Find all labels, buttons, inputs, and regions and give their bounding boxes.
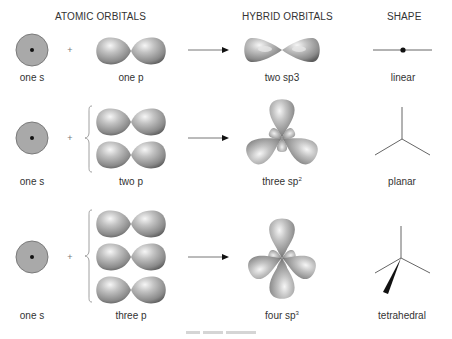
label-hybrid-row2: three sp2 (262, 176, 301, 187)
label-hybrid-row1: two sp3 (265, 72, 299, 83)
sp-hybrid-orbital (244, 38, 320, 62)
s-orbital-row3 (16, 241, 48, 273)
arrow-row3-icon (188, 254, 229, 260)
arrow-row2-icon (188, 135, 229, 141)
hybrid-text-row3: four sp (265, 310, 296, 321)
p-orbital-row2-b (96, 142, 166, 169)
linear-shape (373, 47, 432, 52)
p-orbital-row2-a (96, 109, 166, 136)
brace-row3 (85, 210, 92, 302)
hybrid-sup-row3: 3 (296, 310, 299, 316)
hybrid-sup-row2: 2 (298, 176, 301, 182)
label-shape-row2: planar (388, 176, 416, 187)
label-s-row2: one s (20, 176, 44, 187)
label-s-row3: one s (20, 310, 44, 321)
label-hybrid-row3: four sp3 (265, 310, 299, 321)
p-orbital-row3-a (96, 211, 166, 238)
planar-shape (375, 107, 430, 155)
hybridization-diagram: + + + (0, 0, 452, 339)
plus-sign-row2: + (67, 133, 72, 143)
label-shape-row3: tetrahedral (378, 310, 426, 321)
sp2-hybrid-orbital (242, 99, 322, 168)
p-orbital-row3-c (96, 277, 166, 304)
s-orbital-row1 (16, 34, 48, 66)
plus-sign-row1: + (67, 45, 72, 55)
label-p-row2: two p (119, 176, 143, 187)
p-orbital-row1 (96, 38, 166, 65)
arrow-row1-icon (188, 47, 229, 53)
label-p-row3: three p (115, 310, 146, 321)
figure-caption-cropped (186, 331, 256, 335)
hybrid-text-row1: two sp3 (265, 72, 299, 83)
tetrahedral-shape (375, 226, 430, 294)
p-orbital-row3-b (96, 244, 166, 271)
s-orbital-row2 (16, 122, 48, 154)
label-s-row1: one s (20, 72, 44, 83)
plus-sign-row3: + (67, 252, 72, 262)
label-p-row1: one p (118, 72, 143, 83)
brace-row2 (85, 106, 92, 172)
hybrid-text-row2: three sp (262, 176, 298, 187)
label-shape-row1: linear (391, 72, 415, 83)
sp3-hybrid-orbital (245, 218, 319, 298)
